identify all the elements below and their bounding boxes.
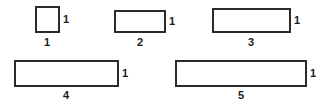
- rectangle-2-width-label: 2: [137, 37, 143, 48]
- rectangle-3-height-label: 1: [294, 15, 300, 26]
- rectangle-1-height-label: 1: [63, 14, 69, 25]
- rectangle-2-height-label: 1: [169, 16, 175, 27]
- rectangle-4-height-label: 1: [122, 68, 128, 79]
- rectangle-5-width-label: 5: [238, 90, 244, 101]
- rectangle-4: [14, 60, 119, 87]
- rectangle-4-width-label: 4: [63, 90, 69, 101]
- rectangle-5-height-label: 1: [310, 68, 316, 79]
- rectangle-2: [114, 10, 166, 33]
- rectangle-1: [35, 6, 60, 33]
- rectangle-5: [175, 60, 307, 87]
- rectangle-3: [212, 8, 291, 33]
- rectangle-1-width-label: 1: [44, 37, 50, 48]
- rectangle-3-width-label: 3: [248, 37, 254, 48]
- rectangles-figure: 1112131415: [0, 0, 326, 104]
